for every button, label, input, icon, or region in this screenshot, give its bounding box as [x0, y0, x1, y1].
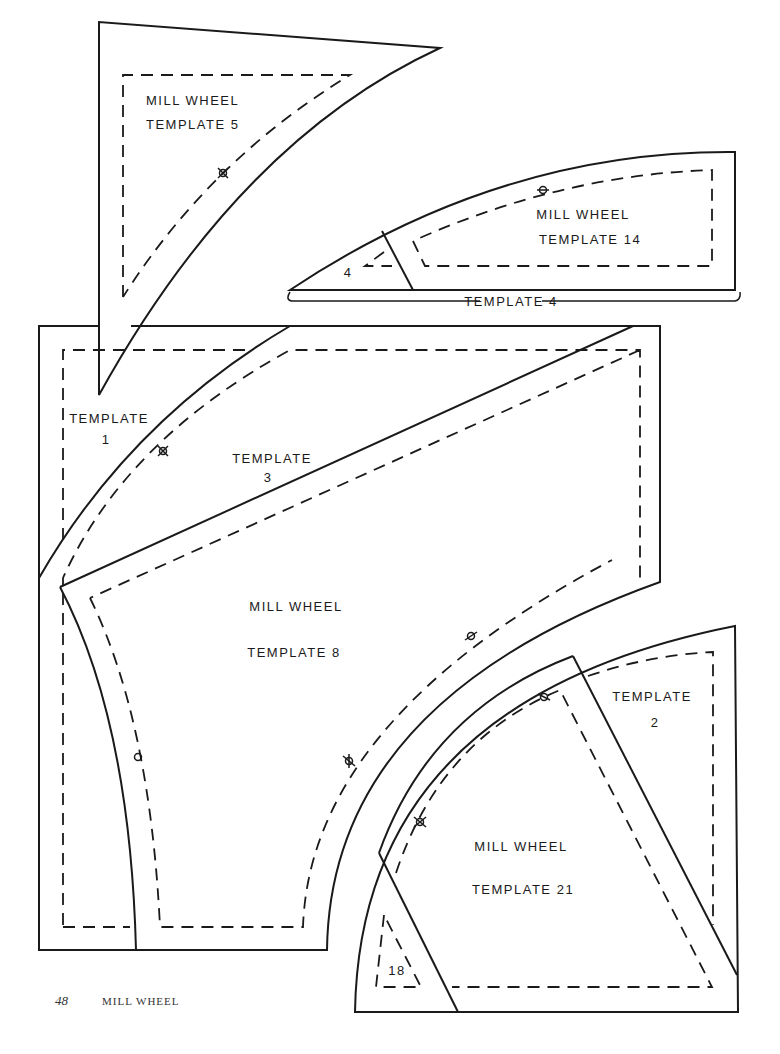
template-2-label-line1: TEMPLATE [612, 689, 692, 704]
template-3-8-divider [60, 326, 633, 587]
template-21-label-line1: MILL WHEEL [474, 839, 567, 854]
template-1-label-line1: TEMPLATE [69, 411, 149, 426]
template-5-label-line1: MILL WHEEL [146, 93, 239, 108]
main-block-piece: TEMPLATE 1 TEMPLATE 3 MILL WHEEL TEMPLAT… [39, 326, 660, 950]
template-18-21-divider [379, 853, 458, 1012]
template-18-label: 18 [388, 963, 405, 978]
template-4-small-label: 4 [344, 265, 353, 280]
template-1-3-registration-mark [158, 446, 168, 456]
template-5-registration-mark [218, 168, 228, 178]
template-8-label-line2: TEMPLATE 8 [247, 645, 341, 660]
template-14-outline [290, 152, 735, 290]
page-number: 48 [55, 993, 69, 1008]
mill-wheel-template-sheet: MILL WHEEL TEMPLATE 5 MILL WHEEL TEMPLAT… [0, 0, 780, 1054]
template-2-label-line2: 2 [651, 715, 660, 730]
template-3-label-line2: 3 [264, 470, 273, 485]
template-3-label-line1: TEMPLATE [232, 451, 312, 466]
quarter-circle-piece: TEMPLATE 2 MILL WHEEL TEMPLATE 21 18 [355, 626, 738, 1012]
template-5-seam-line [123, 75, 350, 297]
template-5-label-line2: TEMPLATE 5 [146, 117, 240, 132]
template-4-divider [382, 231, 413, 290]
template-4-seam-line [365, 252, 392, 266]
template-8-seam-line [90, 560, 612, 927]
template-14-4-piece: MILL WHEEL TEMPLATE 14 4 TEMPLATE 4 [288, 152, 740, 309]
template-1-seam-line [63, 350, 245, 540]
template-21-inner-arc [379, 656, 573, 853]
template-8-right-registration-mark-upper [465, 632, 477, 640]
template-21-registration-mark-lower [414, 817, 426, 827]
template-8-right-registration-mark-lower [343, 754, 355, 768]
template-14-label-line1: MILL WHEEL [536, 207, 629, 222]
template-8-left-divider [60, 587, 136, 950]
template-14-registration-mark [537, 187, 549, 194]
template-4-bracket-label: TEMPLATE 4 [464, 294, 558, 309]
running-title: MILL WHEEL [102, 995, 180, 1007]
template-1-label-line2: 1 [102, 432, 111, 447]
template-14-label-line2: TEMPLATE 14 [539, 232, 641, 247]
template-21-label-line2: TEMPLATE 21 [472, 882, 574, 897]
quarter-circle-outline [355, 626, 738, 1012]
template-8-label-line1: MILL WHEEL [249, 599, 342, 614]
